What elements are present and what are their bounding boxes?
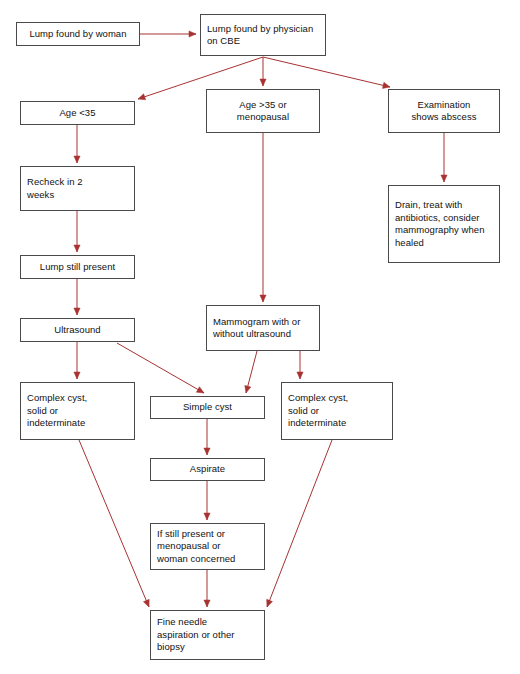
edge-complex-cyst-left-to-fine-needle (79, 440, 149, 607)
node-drain-treat-antibiotics[interactable]: Drain, treat with antibiotics, consider … (388, 185, 500, 263)
node-age-over-35-or-menopausal[interactable]: Age >35 or menopausal (206, 89, 320, 133)
edge-line (246, 351, 257, 393)
node-fine-needle-aspiration[interactable]: Fine needle aspiration or other biopsy (150, 610, 265, 660)
edge-aspirate-to-if-still-present (204, 481, 210, 520)
node-examination-shows-abscess[interactable]: Examination shows abscess (388, 89, 500, 133)
edge-arrowhead (260, 79, 266, 86)
node-label: If still present or menopausal or woman … (151, 528, 241, 566)
node-label: Recheck in 2 weeks (21, 176, 89, 201)
edge-simple-cyst-to-aspirate (204, 419, 210, 455)
edge-line (267, 440, 332, 607)
edge-ultrasound-to-complex-cyst-left (74, 342, 80, 379)
node-label: Complex cyst, solid or indeterminate (282, 392, 354, 430)
node-age-under-35[interactable]: Age <35 (20, 101, 135, 125)
node-simple-cyst[interactable]: Simple cyst (150, 396, 265, 419)
edge-arrowhead (74, 372, 80, 379)
node-if-still-present[interactable]: If still present or menopausal or woman … (150, 523, 265, 570)
edge-physician-to-abscess (263, 57, 390, 88)
edge-arrowhead (267, 599, 273, 607)
edge-physician-to-age-over-35 (260, 57, 266, 86)
edge-arrowhead (382, 82, 390, 88)
edge-abscess-to-drain (441, 133, 447, 182)
edge-mammogram-to-complex-cyst-right (297, 351, 303, 379)
flowchart-canvas: Lump found by womanLump found by physici… (0, 0, 520, 674)
node-label: Age >35 or menopausal (233, 99, 293, 124)
node-lump-still-present[interactable]: Lump still present (20, 255, 135, 279)
edge-arrowhead (260, 295, 266, 302)
node-label: Aspirate (186, 463, 229, 476)
node-lump-found-by-woman[interactable]: Lump found by woman (16, 22, 140, 46)
edge-line (263, 57, 390, 87)
node-ultrasound[interactable]: Ultrasound (20, 318, 135, 342)
edge-arrowhead (74, 308, 80, 315)
edge-if-still-present-to-fine-needle (204, 570, 210, 607)
node-recheck-in-2-weeks[interactable]: Recheck in 2 weeks (20, 166, 135, 211)
edge-recheck-to-lump-still-present (74, 211, 80, 252)
node-aspirate[interactable]: Aspirate (150, 458, 265, 481)
edge-arrowhead (297, 372, 303, 379)
edge-mammogram-to-simple-cyst (245, 351, 257, 393)
edge-arrowhead (143, 599, 149, 607)
edge-arrowhead (441, 175, 447, 182)
node-label: Age <35 (55, 107, 99, 120)
node-label: Ultrasound (50, 324, 104, 337)
node-mammogram-with-or-without-ultrasound[interactable]: Mammogram with or without ultrasound (206, 305, 320, 351)
edge-arrowhead (74, 156, 80, 163)
edge-arrowhead (204, 513, 210, 520)
edge-arrowhead (245, 385, 251, 393)
node-label: Lump found by physician on CBE (201, 23, 319, 48)
edge-age-under-35-to-recheck (74, 125, 80, 163)
edge-arrowhead (196, 387, 204, 393)
node-complex-cyst-right[interactable]: Complex cyst, solid or indeterminate (281, 382, 393, 440)
node-complex-cyst-left[interactable]: Complex cyst, solid or indeterminate (20, 382, 135, 440)
edge-age-over-35-to-mammogram (260, 133, 266, 302)
edge-lump-still-present-to-ultrasound (74, 279, 80, 315)
node-label: Examination shows abscess (407, 99, 480, 124)
node-lump-found-by-physician[interactable]: Lump found by physician on CBE (200, 14, 326, 56)
edge-arrowhead (74, 245, 80, 252)
edge-arrowhead (204, 448, 210, 455)
edge-woman-to-physician (140, 31, 196, 37)
edge-line (79, 440, 149, 607)
node-label: Complex cyst, solid or indeterminate (21, 392, 93, 430)
edge-arrowhead (204, 600, 210, 607)
edge-complex-cyst-right-to-fine-needle (267, 440, 332, 607)
edge-arrowhead (138, 94, 146, 100)
node-label: Drain, treat with antibiotics, consider … (389, 199, 491, 249)
node-label: Mammogram with or without ultrasound (207, 316, 306, 341)
node-label: Fine needle aspiration or other biopsy (151, 616, 241, 654)
node-label: Lump still present (36, 261, 119, 274)
edge-arrowhead (189, 31, 196, 37)
node-label: Simple cyst (179, 401, 236, 414)
node-label: Lump found by woman (25, 28, 130, 41)
